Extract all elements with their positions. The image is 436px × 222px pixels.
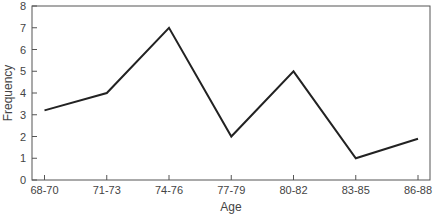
x-tick-label: 80-82	[279, 184, 307, 196]
y-axis-ticks: 012345678	[20, 0, 37, 186]
y-tick-label: 1	[20, 152, 26, 164]
x-tick-label: 86-88	[404, 184, 432, 196]
y-tick-label: 6	[20, 44, 26, 56]
y-tick-label: 2	[20, 131, 26, 143]
x-axis-title: Age	[220, 200, 242, 214]
x-tick-label: 71-73	[93, 184, 121, 196]
x-tick-label: 83-85	[342, 184, 370, 196]
x-tick-label: 77-79	[217, 184, 245, 196]
y-axis-title: Frequency	[1, 65, 15, 122]
y-tick-label: 5	[20, 65, 26, 77]
x-tick-label: 68-70	[30, 184, 58, 196]
y-tick-label: 8	[20, 0, 26, 12]
y-tick-label: 4	[20, 87, 26, 99]
x-tick-label: 74-76	[155, 184, 183, 196]
y-tick-label: 3	[20, 109, 26, 121]
y-tick-label: 0	[20, 174, 26, 186]
y-tick-label: 7	[20, 22, 26, 34]
data-series-line	[45, 28, 419, 159]
line-chart: 012345678 68-7071-7374-7677-7980-8283-85…	[0, 0, 436, 222]
x-axis-ticks: 68-7071-7374-7677-7980-8283-8586-88	[30, 175, 432, 196]
